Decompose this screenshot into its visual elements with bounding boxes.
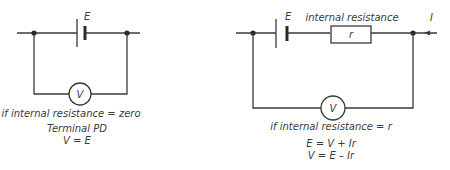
left-loop-wire-b — [91, 33, 127, 94]
voltmeter-icon: V — [69, 83, 91, 105]
left-equation: V = E — [63, 135, 92, 146]
right-meter-label: V — [330, 103, 338, 114]
current-label: I — [430, 12, 433, 23]
cell-icon — [77, 19, 85, 47]
left-circuit: E V if internal resistance = zero Termin… — [1, 11, 140, 146]
right-loop-wire-a — [253, 33, 321, 108]
left-subcaption: Terminal PD — [47, 123, 107, 134]
resistor-heading: internal resistance — [305, 12, 398, 23]
right-equation-1: E = V + Ir — [306, 138, 357, 149]
right-caption: if internal resistance = r — [270, 121, 392, 132]
resistor-icon: r — [331, 26, 371, 43]
left-emf-label: E — [84, 11, 91, 22]
left-loop-wire — [34, 33, 69, 94]
cell-icon — [276, 19, 287, 48]
right-emf-label: E — [285, 11, 292, 22]
right-loop-wire-b — [345, 33, 413, 108]
right-circuit: E internal resistance r I V if internal … — [236, 11, 437, 161]
left-meter-label: V — [77, 89, 85, 100]
voltmeter-icon: V — [321, 96, 345, 120]
right-equation-2: V = E – Ir — [308, 150, 355, 161]
left-caption: if internal resistance = zero — [1, 108, 140, 119]
current-arrow-icon — [424, 31, 430, 36]
